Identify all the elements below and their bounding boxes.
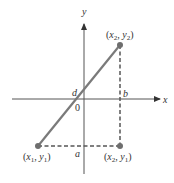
x-axis-label: x [162, 94, 168, 105]
coordinate-plane: y x 0 d a b (x2, y2) (x1, y1) (x2, y1) [0, 0, 174, 183]
distance-segment [38, 45, 120, 146]
leg-label-b: b [123, 88, 128, 99]
origin-label: 0 [75, 102, 80, 113]
point-x2-y2 [117, 42, 123, 48]
y-axis-label: y [81, 6, 87, 17]
point-label-x2-y1: (x2, y1) [104, 151, 132, 164]
leg-label-a: a [75, 148, 80, 159]
distance-diagram: y x 0 d a b (x2, y2) (x1, y1) (x2, y1) [0, 0, 174, 183]
point-label-x2-y2: (x2, y2) [106, 29, 134, 42]
point-label-x1-y1: (x1, y1) [23, 151, 51, 164]
point-x1-y1 [35, 143, 41, 149]
point-x2-y1 [117, 143, 123, 149]
